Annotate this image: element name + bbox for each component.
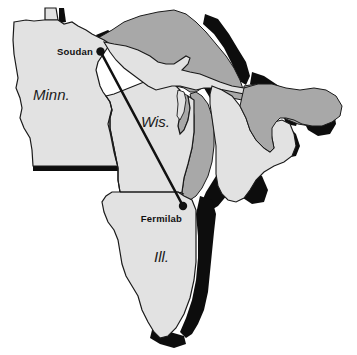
- state-label-minnesota: Minn.: [33, 86, 70, 103]
- state-label-illinois: Ill.: [154, 248, 169, 265]
- state-label-wisconsin: Wis.: [141, 113, 170, 130]
- soudan-marker-dot[interactable]: [96, 47, 104, 55]
- site-label-fermilab: Fermilab: [141, 213, 182, 224]
- map-figure: Minn. Wis. Ill. Soudan Fermilab: [0, 0, 357, 355]
- state-minnesota-nw-angle: [45, 8, 58, 20]
- map-svg: Minn. Wis. Ill. Soudan Fermilab: [0, 0, 357, 355]
- site-label-soudan: Soudan: [57, 46, 93, 57]
- shadow-minnesota-south: [33, 166, 120, 171]
- fermilab-marker-dot[interactable]: [179, 202, 187, 210]
